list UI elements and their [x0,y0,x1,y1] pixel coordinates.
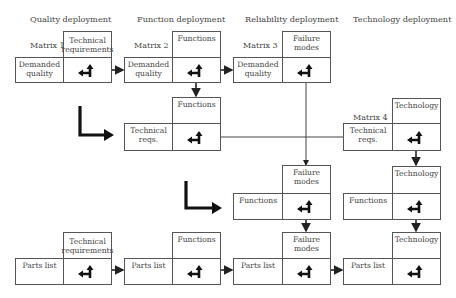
matrix-4-top-cell: Technology [392,98,441,124]
matrix-2-label: Matrix 2 [134,41,169,50]
corner-arrow-icon [407,199,427,215]
corner-arrow-icon [78,63,98,79]
corner-arrow-icon [187,264,207,280]
matrix-2-left-cell: Demanded quality [124,57,173,83]
corner-arrow-icon [78,264,98,280]
matrix-4-label: Matrix 4 [353,113,388,122]
row3-reliability-left-cell: Functions [233,193,283,220]
row4-function-body [172,258,221,285]
header-quality-deployment: Quality deployment [30,14,111,24]
matrix-2-top-cell: Functions [172,31,221,58]
corner-arrow-icon [407,130,427,146]
row4-technology-body [392,258,441,285]
corner-arrow-icon [297,264,317,280]
corner-arrow-icon [297,63,317,79]
row3-technology-top-cell: Technology [392,166,441,194]
matrix-2-body [172,57,221,83]
row2-top-cell: Functions [172,97,221,124]
matrix-4-left-cell: Technical reqs. [343,123,393,151]
row4-quality-top-cell: Technical requirements [63,232,112,259]
corner-arrow-icon [407,264,427,280]
row4-function-left-cell: Parts list [124,258,173,285]
matrix-3-body [282,57,331,83]
matrix-3-top-cell: Failure modes [282,31,331,58]
matrix-4-body [392,123,441,151]
row4-quality-left-cell: Parts list [15,258,64,285]
row3-technology-left-cell: Functions [343,193,393,220]
header-function-deployment: Function deployment [137,14,225,24]
header-reliability-deployment: Reliability deployment [245,14,338,24]
row2-left-cell: Technical reqs. [124,123,173,151]
row4-technology-left-cell: Parts list [343,258,393,285]
row3-technology-body [392,193,441,220]
matrix-3-label: Matrix 3 [243,41,278,50]
row4-reliability-top-cell: Failure modes [282,232,331,259]
matrix-1-body [63,57,112,83]
corner-arrow-icon [187,63,207,79]
row4-function-top-cell: Functions [172,232,221,259]
corner-arrow-icon [187,130,207,146]
matrix-1-left-cell: Demanded quality [15,57,64,83]
row4-reliability-body [282,258,331,285]
row2-body [172,123,221,151]
matrix-1-label: Matrix 1 [30,41,65,50]
corner-arrow-icon [297,199,317,215]
matrix-1-top-cell: Technical requirements [63,31,112,58]
row4-quality-body [63,258,112,285]
row4-technology-top-cell: Technology [392,232,441,259]
header-technology-deployment: Technology deployment [353,14,451,24]
row3-reliability-top-cell: Failure modes [282,165,331,194]
row4-reliability-left-cell: Parts list [233,258,283,285]
row3-reliability-body [282,193,331,220]
matrix-3-left-cell: Demanded quality [233,57,283,83]
